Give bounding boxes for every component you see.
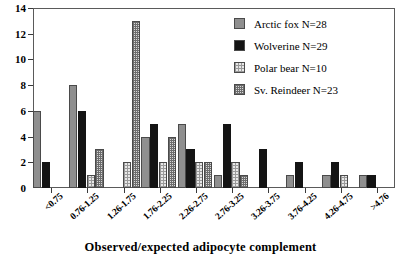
legend-swatch-light-stipple-icon <box>234 62 245 73</box>
x-tick-label: 2.26-2.75 <box>177 191 209 222</box>
y-tick-label: 2 <box>21 157 27 168</box>
y-tick-label: 0 <box>21 183 27 194</box>
y-tick-label: 10 <box>15 54 26 65</box>
x-tick-label: <0.75 <box>42 191 64 213</box>
legend-swatch-solid-black-icon <box>234 40 245 51</box>
x-tick-mark <box>268 188 269 193</box>
x-tick-label: 2.76-3.25 <box>213 191 245 222</box>
x-tick-mark <box>87 188 88 193</box>
legend-label: Sv. Reindeer N=23 <box>254 84 338 96</box>
bar <box>95 149 103 188</box>
legend-item: Wolverine N=29 <box>234 36 386 55</box>
bar <box>186 149 194 188</box>
bar <box>33 111 41 188</box>
bar <box>331 162 339 188</box>
x-tick-mark <box>124 188 125 193</box>
x-tick-mark <box>377 188 378 193</box>
x-tick-label: 4.26-4.75 <box>322 191 354 222</box>
legend-item: Polar bear N=10 <box>234 58 386 77</box>
bar <box>214 175 222 188</box>
x-tick-mark <box>51 188 52 193</box>
bar <box>87 175 95 188</box>
y-tick-label: 6 <box>21 105 27 116</box>
bar <box>340 175 348 188</box>
legend-label: Arctic fox N=28 <box>254 18 327 30</box>
bar-chart: 02468101214 Arctic fox N=28Wolverine N=2… <box>0 0 401 259</box>
bar <box>259 149 267 188</box>
x-tick-mark <box>160 188 161 193</box>
bar <box>150 124 158 188</box>
y-tick-label: 14 <box>15 3 26 14</box>
x-tick-label: 3.76-4.25 <box>286 191 318 222</box>
x-tick-mark <box>232 188 233 193</box>
bar <box>141 137 149 188</box>
x-tick-label: 1.26-1.75 <box>105 191 137 222</box>
legend-item: Sv. Reindeer N=23 <box>234 80 386 99</box>
bar <box>286 175 294 188</box>
legend-swatch-dark-checker-icon <box>234 84 245 95</box>
bar <box>168 137 176 188</box>
bar <box>204 162 212 188</box>
bar <box>78 111 86 188</box>
bar <box>223 124 231 188</box>
x-tick-mark <box>196 188 197 193</box>
x-tick-mark <box>341 188 342 193</box>
legend-label: Wolverine N=29 <box>254 40 327 52</box>
bar <box>322 175 330 188</box>
x-tick-mark <box>305 188 306 193</box>
x-axis-title: Observed/expected adipocyte complement <box>0 240 401 255</box>
bar <box>231 162 239 188</box>
bar <box>367 175 375 188</box>
legend-item: Arctic fox N=28 <box>234 14 386 33</box>
y-tick-label: 4 <box>21 131 27 142</box>
bar <box>69 85 77 188</box>
x-tick-label: 3.26-3.75 <box>250 191 282 222</box>
bar <box>195 162 203 188</box>
y-tick-label: 8 <box>21 80 27 91</box>
bar <box>240 175 248 188</box>
x-tick-label: >4.76 <box>368 191 390 213</box>
x-tick-label: 0.76-1.25 <box>69 191 101 222</box>
bar <box>132 21 140 188</box>
x-tick-label: 1.76-2.25 <box>141 191 173 222</box>
y-axis: 02468101214 <box>0 0 33 188</box>
legend-label: Polar bear N=10 <box>254 62 327 74</box>
bar <box>359 175 367 188</box>
bar <box>178 124 186 188</box>
bar <box>295 162 303 188</box>
bar <box>159 162 167 188</box>
bar <box>123 162 131 188</box>
y-tick-label: 12 <box>15 28 26 39</box>
chart-legend: Arctic fox N=28Wolverine N=29Polar bear … <box>234 14 386 102</box>
bar <box>42 162 50 188</box>
legend-swatch-solid-gray-icon <box>234 18 245 29</box>
